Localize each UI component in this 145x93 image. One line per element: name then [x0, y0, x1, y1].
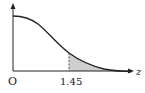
y-axis-arrowhead-icon — [11, 3, 16, 9]
origin-label: O — [8, 75, 17, 88]
marked-value-label: 1.45 — [60, 76, 82, 87]
shaded-tail-region — [69, 53, 130, 72]
normal-curve-diagram: O 1.45 z — [0, 0, 145, 93]
x-axis-label: z — [135, 66, 142, 77]
